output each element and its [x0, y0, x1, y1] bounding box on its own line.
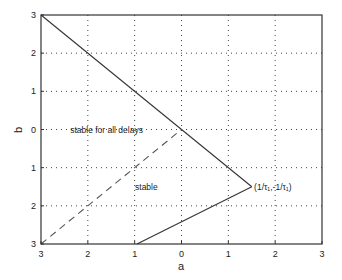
series-line	[41, 130, 182, 245]
annotation-label: stable	[135, 182, 158, 192]
x-tick-label: 3	[38, 249, 43, 259]
stability-chart: 3210123 3210123 stable for all delayssta…	[0, 0, 342, 280]
annotation-label: (1/τ₁,-1/τ₁)	[254, 182, 292, 192]
annotations: stable for all delaysstable(1/τ₁,-1/τ₁)	[70, 125, 292, 192]
y-axis-ticks: 3210123	[31, 10, 44, 249]
y-tick-label: 0	[31, 125, 36, 135]
series-line	[137, 187, 252, 244]
y-axis-label: b	[12, 127, 24, 133]
y-tick-label: 1	[31, 163, 36, 173]
x-tick-label: 2	[85, 249, 90, 259]
x-tick-label: 1	[226, 249, 231, 259]
y-tick-label: 2	[31, 48, 36, 58]
x-tick-label: 1	[132, 249, 137, 259]
x-axis-label: a	[178, 260, 185, 272]
annotation-label: stable for all delays	[70, 125, 143, 135]
x-tick-label: 0	[179, 249, 184, 259]
y-tick-label: 3	[31, 10, 36, 20]
x-tick-label: 3	[319, 249, 324, 259]
y-tick-label: 2	[31, 201, 36, 211]
x-tick-label: 2	[273, 249, 278, 259]
series-line	[41, 15, 252, 187]
y-tick-label: 3	[31, 239, 36, 249]
y-tick-label: 1	[31, 86, 36, 96]
